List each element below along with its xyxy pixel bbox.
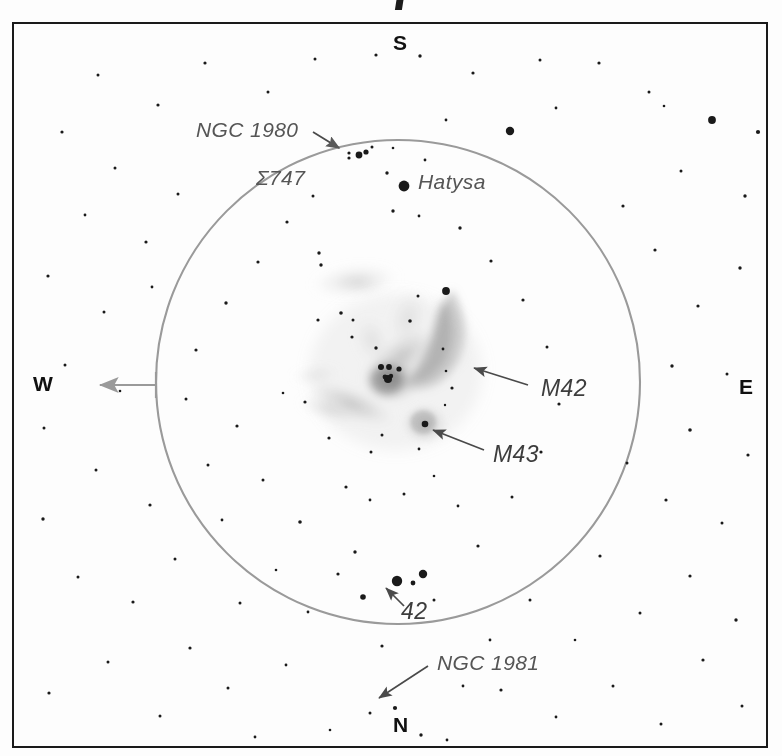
- label-ngc-1980: NGC 1980: [196, 118, 298, 142]
- arrow-m43: [433, 430, 484, 450]
- label-42: 42: [401, 598, 427, 625]
- cardinal-south: S: [393, 31, 407, 55]
- arrow-ngc1981: [379, 666, 428, 698]
- arrow-ngc1980: [313, 132, 339, 148]
- label-ngc-1981: NGC 1981: [437, 651, 539, 675]
- cardinal-north: N: [393, 713, 408, 737]
- cardinal-west: W: [33, 372, 53, 396]
- star-chart: S W E N NGC 1980 Σ747 Hatysa M42 M43 42 …: [0, 0, 782, 756]
- label-m42: M42: [541, 375, 587, 402]
- cardinal-east: E: [739, 375, 753, 399]
- label-sigma-747: Σ747: [256, 166, 305, 190]
- label-hatysa: Hatysa: [418, 170, 486, 194]
- label-m43: M43: [493, 441, 539, 468]
- sky-canvas: [0, 0, 782, 756]
- west-direction-arrow: [100, 372, 156, 398]
- arrow-m42: [474, 368, 528, 385]
- nebula-outer-glow: [310, 294, 482, 450]
